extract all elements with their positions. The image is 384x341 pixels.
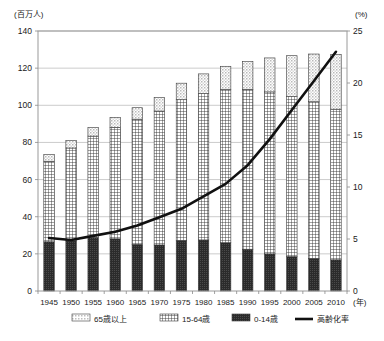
- bar-segment: [198, 240, 209, 291]
- bar-segment: [154, 97, 165, 111]
- bar-segment: [265, 92, 276, 254]
- x-tick-label: 2005: [305, 298, 323, 307]
- x-tick-label: 1960: [106, 298, 124, 307]
- y-tick-label: 120: [18, 63, 32, 73]
- x-tick-label: 1980: [195, 298, 213, 307]
- bar-segment: [44, 242, 55, 291]
- bar-group: [220, 66, 231, 291]
- x-tick-label: 1975: [173, 298, 191, 307]
- bar-group: [331, 54, 342, 291]
- bar-segment: [331, 109, 342, 260]
- legend-label: 0-14歳: [254, 314, 278, 324]
- bar-group: [44, 155, 55, 292]
- bar-segment: [331, 260, 342, 291]
- y-tick-label: 100: [18, 100, 32, 110]
- bar-segment: [88, 127, 99, 136]
- bar-segment: [176, 240, 187, 291]
- bar-group: [287, 56, 298, 291]
- bar-segment: [176, 100, 187, 241]
- y2-tick-label: 20: [353, 78, 363, 88]
- bar-segment: [287, 257, 298, 291]
- legend-swatch: [232, 314, 250, 321]
- bar-group: [132, 108, 143, 291]
- x-axis-tick-labels: 1945195019551960196519701975198019851990…: [40, 297, 367, 307]
- left-axis-unit: (百万人): [14, 10, 44, 19]
- y-tick-label: 40: [23, 212, 33, 222]
- bar-segment: [154, 245, 165, 291]
- x-tick-label: 1985: [217, 298, 235, 307]
- bar-group: [309, 54, 320, 291]
- bar-segment: [309, 102, 320, 259]
- bar-segment: [309, 259, 320, 292]
- legend-swatch: [72, 314, 90, 321]
- y2-tick-label: 5: [353, 234, 358, 244]
- bar-segment: [220, 90, 231, 243]
- chart-canvas: (百万人) (%) 020406080100120140 0510152025 …: [0, 0, 384, 341]
- x-tick-label: 1990: [239, 298, 257, 307]
- bar-segment: [331, 54, 342, 109]
- bar-group: [66, 140, 77, 291]
- bar-group: [154, 97, 165, 291]
- bar-group: [198, 74, 209, 291]
- right-axis-unit: (%): [355, 10, 368, 19]
- bar-segment: [44, 161, 55, 241]
- bar-segment: [44, 155, 55, 162]
- bar-segment: [66, 148, 77, 241]
- bar-segment: [287, 97, 298, 257]
- y-tick-label: 80: [23, 137, 33, 147]
- bar-segment: [110, 127, 121, 238]
- bar-segment: [110, 117, 121, 127]
- bar-segment: [220, 243, 231, 291]
- chart-background: [0, 0, 384, 341]
- bar-segment: [265, 58, 276, 92]
- bar-group: [242, 62, 253, 291]
- x-tick-label: 1950: [62, 298, 80, 307]
- population-aging-chart: (百万人) (%) 020406080100120140 0510152025 …: [0, 0, 384, 341]
- bar-segment: [110, 239, 121, 291]
- bar-group: [265, 58, 276, 291]
- bar-segment: [66, 140, 77, 148]
- bar-segment: [154, 111, 165, 245]
- bar-segment: [198, 94, 209, 240]
- y2-tick-label: 25: [353, 26, 363, 36]
- bar-segment: [287, 56, 298, 97]
- bar-segment: [242, 249, 253, 291]
- x-tick-label: 2010: [327, 298, 345, 307]
- bar-group: [88, 127, 99, 291]
- bar-group: [176, 83, 187, 291]
- bar-segment: [265, 254, 276, 291]
- legend-label: 高齢化率: [317, 314, 349, 324]
- y-tick-label: 60: [23, 175, 33, 185]
- x-tick-label: 2000: [283, 298, 301, 307]
- x-tick-label: 1955: [84, 298, 102, 307]
- y-tick-label: 20: [23, 249, 33, 259]
- bar-segment: [198, 74, 209, 94]
- bar-segment: [132, 244, 143, 291]
- legend-label: 15-64歳: [182, 314, 210, 324]
- x-axis-unit: (年): [353, 297, 367, 307]
- y2-tick-label: 0: [353, 286, 358, 296]
- y2-tick-label: 10: [353, 182, 363, 192]
- x-tick-label: 1995: [261, 298, 279, 307]
- bar-segment: [88, 238, 99, 291]
- y2-tick-label: 15: [353, 130, 363, 140]
- legend-swatch: [160, 314, 178, 321]
- bar-segment: [88, 136, 99, 238]
- bar-segment: [220, 66, 231, 89]
- x-tick-label: 1965: [128, 298, 146, 307]
- x-tick-label: 1970: [150, 298, 168, 307]
- bar-segment: [132, 108, 143, 120]
- x-tick-label: 1945: [40, 298, 58, 307]
- bar-segment: [176, 83, 187, 100]
- bar-segment: [242, 62, 253, 90]
- bar-segment: [66, 241, 77, 291]
- legend-label: 65歳以上: [94, 314, 127, 324]
- y-tick-label: 140: [18, 26, 32, 36]
- y-tick-label: 0: [27, 286, 32, 296]
- bar-group: [110, 117, 121, 291]
